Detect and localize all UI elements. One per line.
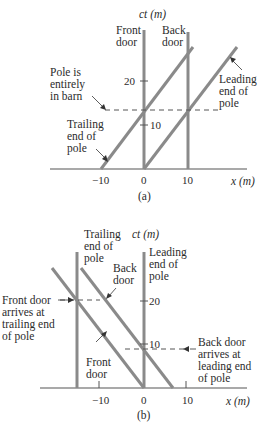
panel-a-leading-label-3: pole [219,97,239,109]
panel-b-back-door-label-1: Back [113,262,137,274]
panel-b-ytick-20: 20 [149,296,160,307]
panel-b-leading-label-1: Leading [149,246,187,258]
panel-b-xtick-neg10: −10 [92,395,109,406]
panel-b-trailing-label-3: pole [84,252,104,264]
panel-a-ct-axis-label: ct (m) [139,8,166,20]
panel-a-leading-label-1: Leading [219,73,257,85]
panel-a-front-door-label-1: Front [116,24,141,36]
panel-b-front-door-label-1: Front [86,356,111,368]
panel-b-xtick-10: 10 [182,395,193,406]
panel-a-pole-label-1: Pole is [50,66,81,78]
panel-a-trailing-label-1: Trailing [67,118,104,130]
panel-b-ct-axis-label: ct (m) [132,228,159,240]
panel-b-back-arrives-arrowhead [183,346,189,352]
panel-b-trailing-label-1: Trailing [84,228,121,240]
panel-a-back-door-label-1: Back [162,24,186,36]
panel-a-pole-label-2: entirely [50,78,85,90]
panel-b-front-arrives-label-4: of pole [2,330,34,342]
panel-b-trailing-label-2: end of [84,240,113,252]
panel-a-ytick-20: 20 [124,76,135,87]
panel-b-caption: (b) [137,409,150,421]
panel-a-trailing-end-worldline [101,47,193,169]
panel-a-back-door-label-2: door [162,36,183,48]
panel-b-ytick-10: 10 [149,339,160,350]
panel-b-back-arrives-label-3: leading end [198,360,251,372]
panel-a-pole-label-3: in barn [50,90,82,102]
panel-b-back-door-label-2: door [113,274,134,286]
panel-a-trailing-label-2: end of [67,130,96,142]
panel-b-x-axis-label: x (m) [226,395,250,407]
panel-a-front-door-label-2: door [116,36,137,48]
panel-b-leading-label-2: end of [149,258,178,270]
panel-b-back-arrives-label-2: arrives at [198,348,240,360]
panel-b-front-arrives-label-1: Front door [2,294,51,306]
panel-b-xtick-0: 0 [141,395,147,406]
panel-a-caption: (a) [138,190,151,202]
panel-a-x-axis-label: x (m) [231,175,255,187]
panel-b-leading-label-3: pole [149,270,169,282]
panel-b-back-arrives-label-1: Back door [198,336,246,348]
panel-a-ytick-10: 10 [150,120,161,131]
panel-a-xtick-10: 10 [182,175,193,186]
panel-b-front-arrives-label-3: trailing end [2,318,55,330]
panel-a-leading-arrowhead [230,57,236,63]
panel-a-xtick-0: 0 [141,175,147,186]
panel-a-xtick-neg10: −10 [92,175,109,186]
panel-b-front-door-label-2: door [86,368,107,380]
panel-b-back-arrives-label-4: of pole [198,372,230,384]
panel-a-leading-label-2: end of [219,85,248,97]
panel-b-front-arrives-label-2: arrives at [2,306,44,318]
panel-a-trailing-label-3: pole [67,142,87,154]
